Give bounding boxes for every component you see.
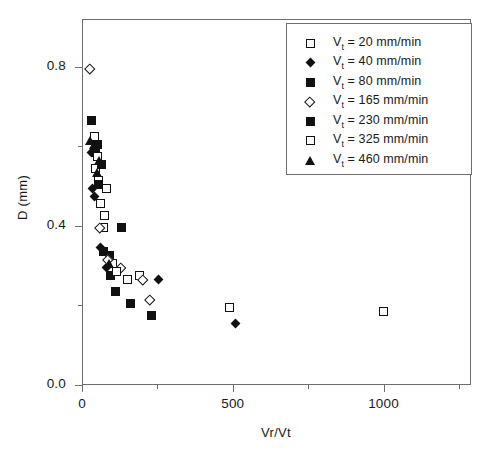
data-point xyxy=(87,116,96,125)
y-tick-label: 0.8 xyxy=(26,58,66,73)
data-point xyxy=(225,303,234,312)
legend-item: Vt = 165 mm/min xyxy=(287,92,473,112)
data-point xyxy=(89,140,99,149)
legend-label: Vt = 230 mm/min xyxy=(333,113,428,130)
legend-swatch xyxy=(305,58,315,68)
legend-label: Vt = 80 mm/min xyxy=(333,74,421,91)
legend-label: Vt = 20 mm/min xyxy=(333,35,421,52)
data-point xyxy=(94,156,104,165)
legend-item: Vt = 460 mm/min xyxy=(287,150,473,170)
legend-item: Vt = 40 mm/min xyxy=(287,53,473,73)
legend-label: Vt = 325 mm/min xyxy=(333,132,428,149)
legend: Vt = 20 mm/minVt = 40 mm/minVt = 80 mm/m… xyxy=(286,23,472,175)
data-point xyxy=(147,311,156,320)
x-axis-title: Vr/Vt xyxy=(176,425,376,440)
legend-swatch xyxy=(306,78,315,87)
data-point xyxy=(123,275,132,284)
data-point xyxy=(117,223,126,232)
y-axis-title: D (mm) xyxy=(15,138,30,258)
legend-label: Vt = 40 mm/min xyxy=(333,54,421,71)
data-point xyxy=(112,267,121,276)
y-tick-label: 0.0 xyxy=(26,376,66,391)
x-major-tick xyxy=(82,385,83,392)
x-minor-tick xyxy=(459,385,460,389)
x-major-tick xyxy=(233,385,234,392)
y-major-tick xyxy=(75,226,82,227)
x-tick-label: 500 xyxy=(203,396,263,411)
data-point xyxy=(92,168,102,177)
legend-swatch xyxy=(305,156,315,165)
data-point xyxy=(100,211,109,220)
legend-marker-square-open-icon xyxy=(287,131,333,151)
data-point xyxy=(111,287,120,296)
legend-marker-triangle-fill-icon xyxy=(287,150,333,170)
y-major-tick xyxy=(75,67,82,68)
x-tick-label: 0 xyxy=(52,396,112,411)
legend-item: Vt = 230 mm/min xyxy=(287,111,473,131)
legend-marker-square-open-icon xyxy=(287,33,333,53)
legend-label: Vt = 165 mm/min xyxy=(333,93,428,110)
legend-marker-square-fill-icon xyxy=(287,72,333,92)
x-minor-tick xyxy=(157,385,158,389)
data-point xyxy=(96,199,105,208)
legend-item: Vt = 20 mm/min xyxy=(287,33,473,53)
legend-item: Vt = 80 mm/min xyxy=(287,72,473,92)
legend-item: Vt = 325 mm/min xyxy=(287,131,473,151)
data-point xyxy=(126,299,135,308)
y-major-tick xyxy=(75,385,82,386)
data-point xyxy=(104,259,114,268)
legend-marker-square-fill-icon xyxy=(287,111,333,131)
scatter-chart-figure: 0.00.40.805001000 Vr/Vt D (mm) Vt = 20 m… xyxy=(0,0,495,458)
data-point xyxy=(102,184,111,193)
legend-swatch xyxy=(306,117,315,126)
x-tick-label: 1000 xyxy=(354,396,414,411)
legend-label: Vt = 460 mm/min xyxy=(333,152,428,169)
legend-marker-diamond-open-icon xyxy=(287,92,333,112)
legend-swatch xyxy=(306,39,315,48)
x-major-tick xyxy=(384,385,385,392)
y-minor-tick xyxy=(78,305,82,306)
data-point xyxy=(379,307,388,316)
legend-marker-diamond-fill-icon xyxy=(287,53,333,73)
y-minor-tick xyxy=(78,146,82,147)
y-tick-label: 0.4 xyxy=(26,217,66,232)
x-minor-tick xyxy=(308,385,309,389)
legend-swatch xyxy=(306,136,315,145)
legend-swatch xyxy=(305,96,316,107)
